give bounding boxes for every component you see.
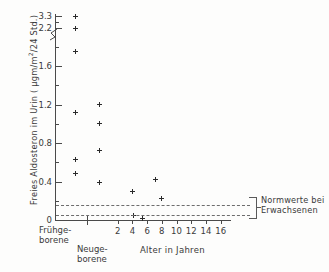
x-tick-label: 2: [110, 226, 126, 236]
data-point-fruehgeborene: [73, 26, 78, 31]
category-fruehgeborene-line1: Frühge-: [39, 225, 71, 235]
x-category-separator-tick: [87, 216, 88, 225]
y-tick-major: [55, 220, 62, 221]
y-tick-major: [55, 182, 62, 183]
x-tick-label: 10: [169, 226, 185, 236]
y-axis-title-superscript: 2: [27, 52, 34, 56]
x-axis-line: [55, 220, 231, 221]
data-point-alter: [130, 189, 135, 194]
y-tick-major: [55, 105, 62, 106]
y-tick-major: [55, 143, 62, 144]
y-axis-line: [55, 14, 56, 220]
data-point-fruehgeborene: [73, 171, 78, 176]
data-point-alter: [153, 177, 158, 182]
category-label-fruehgeborene: Frühge- borene: [39, 226, 95, 245]
x-axis-title: Alter in Jahren: [140, 245, 205, 255]
data-point-fruehgeborene: [73, 157, 78, 162]
y-tick-minor: [55, 85, 59, 86]
y-tick-minor: [55, 22, 59, 23]
reference-band-label-line1: Normwerte bei: [261, 195, 324, 205]
x-tick: [206, 220, 207, 224]
x-tick: [132, 220, 133, 224]
y-tick-label: 1.6: [28, 61, 52, 71]
y-tick-label: 2.2: [28, 23, 52, 33]
data-point-neugeborene: [97, 102, 102, 107]
data-point-neugeborene: [97, 121, 102, 126]
x-tick-label: 14: [198, 226, 214, 236]
category-neugeborene-line1: Neuge-: [77, 244, 108, 254]
x-tick: [147, 220, 148, 224]
y-tick-label: 0.4: [28, 177, 52, 187]
y-tick-minor: [55, 201, 59, 202]
aldosterone-scatter-chart: Freies Aldosteron im Urin ( µgm/m2/24 St…: [0, 0, 329, 272]
reference-line-upper: [56, 205, 250, 206]
reference-line-lower: [56, 215, 250, 216]
category-label-neugeborene: Neuge- borene: [77, 245, 137, 264]
y-tick-minor: [55, 124, 59, 125]
y-tick-major: [55, 16, 62, 17]
category-neugeborene-line2: borene: [77, 254, 107, 264]
y-tick-label: 0: [28, 215, 52, 225]
data-point-fruehgeborene: [73, 110, 78, 115]
data-point-fruehgeborene: [73, 49, 78, 54]
x-tick-label: 6: [139, 226, 155, 236]
data-point-fruehgeborene: [73, 14, 78, 19]
category-fruehgeborene-line2: borene: [39, 235, 69, 245]
y-tick-minor: [55, 47, 59, 48]
x-tick: [191, 220, 192, 224]
y-tick-label: 1.2: [28, 100, 52, 110]
y-tick-minor: [55, 162, 59, 163]
data-point-neugeborene: [97, 180, 102, 185]
x-tick-label: 4: [124, 226, 140, 236]
y-tick-major: [55, 66, 62, 67]
reference-band-bracket: [249, 197, 257, 219]
x-tick: [177, 220, 178, 224]
data-point-neugeborene: [97, 148, 102, 153]
x-tick: [118, 220, 119, 224]
x-tick: [221, 220, 222, 224]
y-tick-major: [55, 28, 62, 29]
x-tick-label: 8: [154, 226, 170, 236]
y-tick-label: 0.8: [28, 138, 52, 148]
x-tick: [162, 220, 163, 224]
y-tick-label: 3.3: [28, 11, 52, 21]
reference-band-label-line2: Erwachsenen: [261, 205, 318, 215]
x-tick-label: 12: [183, 226, 199, 236]
data-point-alter: [159, 196, 164, 201]
x-tick-label: 16: [213, 226, 229, 236]
